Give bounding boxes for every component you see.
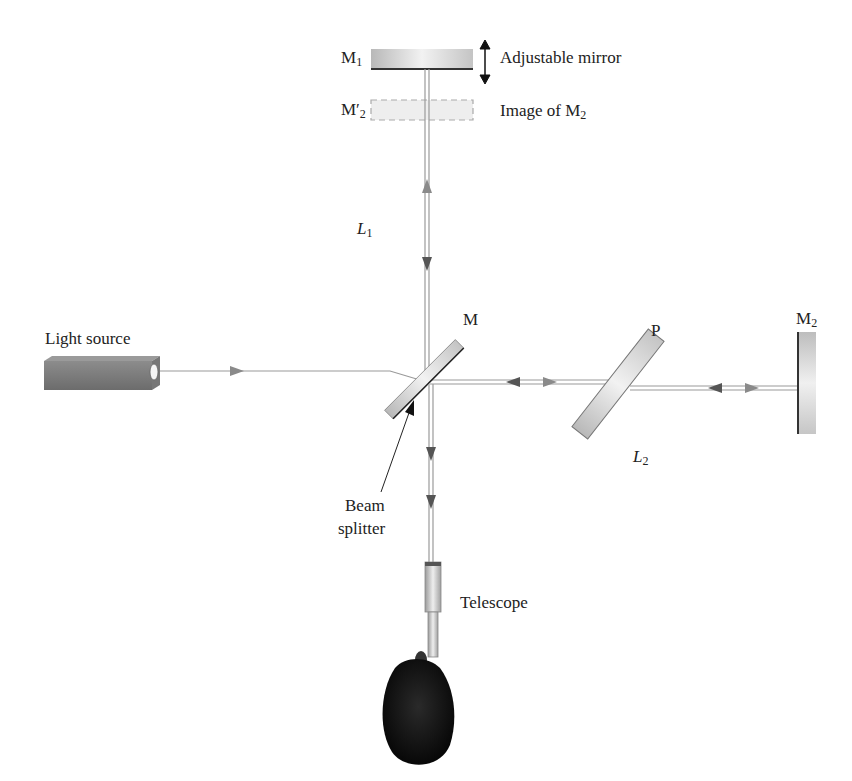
beam-input [160, 371, 420, 380]
beam-arrow-down-2 [426, 495, 436, 509]
label-l2: L2 [633, 448, 648, 467]
label-image-of-m2: Image of M2 [500, 102, 586, 121]
label-splitter: splitter [338, 520, 385, 537]
beam-arrow-down [422, 257, 432, 271]
beam-arrow-right [230, 366, 244, 376]
beam-arrow-right-2 [745, 383, 759, 393]
label-m2: M2 [796, 310, 817, 329]
label-p: P [651, 322, 660, 339]
label-m2-prime: M′2 [341, 101, 366, 120]
beam-to-telescope [429, 384, 433, 562]
beam-splitter-m [385, 340, 464, 419]
adjustable-mirror-m1 [371, 49, 473, 69]
beam-arrow-left-2 [708, 383, 722, 393]
label-adjustable-mirror: Adjustable mirror [500, 49, 621, 66]
label-l1: L1 [357, 220, 372, 239]
adjust-double-arrow-icon [480, 40, 490, 84]
label-beam: Beam [345, 497, 385, 514]
beam-arrow-left-1 [506, 377, 520, 387]
label-light-source: Light source [45, 330, 130, 347]
label-m: M [463, 311, 478, 328]
label-m1: M1 [341, 49, 362, 68]
telescope [425, 562, 441, 657]
beam-arrow-up [422, 179, 432, 193]
observer-head [383, 651, 455, 765]
beam-arrow-down-1 [426, 447, 436, 461]
beam-arrow-right-1 [543, 377, 557, 387]
mirror-m2 [798, 332, 816, 434]
light-source-box [44, 356, 160, 390]
label-telescope: Telescope [460, 594, 528, 611]
interferometer-diagram: M1 Adjustable mirror M′2 Image of M2 L1 … [0, 0, 852, 781]
image-of-m2-dashed [371, 100, 473, 120]
